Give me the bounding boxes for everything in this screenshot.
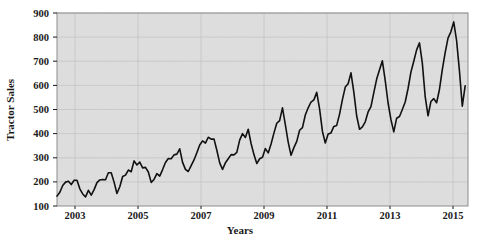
x-tick-label: 2005: [128, 210, 149, 221]
x-tick-label: 2015: [443, 210, 464, 221]
chart-figure: 900 800 700 600 500 400 300 200 100 2003…: [0, 0, 477, 244]
y-tick-label: 200: [33, 176, 49, 187]
y-tick-label: 800: [33, 32, 49, 43]
y-tick-label: 700: [33, 56, 49, 67]
y-tick-label: 100: [33, 201, 49, 212]
tractor-sales-line-chart: 900 800 700 600 500 400 300 200 100 2003…: [0, 0, 477, 244]
x-axis-title: Years: [227, 224, 254, 236]
y-tick-label: 900: [33, 8, 49, 19]
y-tick-label: 300: [33, 152, 49, 163]
y-axis-tick-labels: 900 800 700 600 500 400 300 200 100: [33, 8, 49, 212]
y-tick-label: 600: [33, 80, 49, 91]
x-tick-label: 2011: [317, 210, 337, 221]
y-tick-label: 500: [33, 104, 49, 115]
y-tick-label: 400: [33, 128, 49, 139]
x-tick-label: 2007: [191, 210, 212, 221]
x-tick-label: 2013: [380, 210, 401, 221]
y-axis-title: Tractor Sales: [4, 78, 16, 141]
x-tick-label: 2009: [254, 210, 275, 221]
x-tick-label: 2003: [65, 210, 86, 221]
